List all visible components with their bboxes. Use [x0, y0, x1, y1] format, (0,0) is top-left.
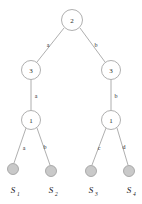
- node-left-l1-value: 3: [29, 67, 33, 75]
- node-root-value: 2: [70, 17, 74, 25]
- leaf-label-4: S: [127, 185, 132, 195]
- node-left-l2-value: 1: [29, 117, 33, 125]
- edge-group: [14, 28, 128, 165]
- edge-leaf-4-label: d: [123, 144, 126, 150]
- edge-left-down-label: a: [35, 93, 38, 99]
- leaf-subscript-3: 3: [94, 191, 98, 197]
- edge-leaf-1-label: a: [23, 145, 26, 151]
- leaf-subscript-2: 2: [55, 191, 58, 197]
- leaf-node-2[interactable]: [46, 166, 57, 177]
- node-group: [22, 10, 121, 130]
- leaf-label-1: S: [11, 185, 16, 195]
- node-right-l1-value: 3: [109, 67, 113, 75]
- edge-root-right-label: b: [95, 42, 98, 48]
- leaf-node-4[interactable]: [124, 166, 135, 177]
- leaf-group: [8, 164, 135, 177]
- edge-leaf-3-label: c: [98, 145, 101, 151]
- leaf-label-group: S 1 S 2 S 3 S 4: [11, 185, 136, 197]
- node-right-l2-value: 1: [109, 117, 113, 125]
- node-value-group: 2 3 3 1 1: [29, 17, 113, 125]
- edge-label-group: a b a b a b c d: [23, 42, 126, 151]
- leaf-label-2: S: [49, 185, 54, 195]
- edge-root-left-label: a: [47, 42, 50, 48]
- leaf-label-3: S: [89, 185, 94, 195]
- leaf-node-3[interactable]: [86, 166, 97, 177]
- edge-leaf-2-label: b: [44, 144, 47, 150]
- tree-diagram: 2 3 3 1 1 a b a b a b c d S 1 S: [0, 0, 142, 204]
- edge-right-down-label: b: [115, 93, 118, 99]
- edge-root-right-line: [80, 28, 105, 62]
- edge-root-left-line: [37, 28, 64, 62]
- diagram-canvas: 2 3 3 1 1 a b a b a b c d S 1 S: [0, 0, 142, 204]
- leaf-subscript-4: 4: [133, 191, 136, 197]
- leaf-node-1[interactable]: [8, 164, 19, 175]
- leaf-subscript-1: 1: [17, 191, 20, 197]
